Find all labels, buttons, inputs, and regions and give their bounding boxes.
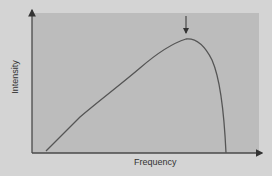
x-axis-label: Frequency — [134, 157, 177, 167]
chart-canvas — [0, 0, 272, 176]
y-axis-label: Intensity — [10, 52, 20, 102]
spectrum-curve — [46, 39, 226, 153]
